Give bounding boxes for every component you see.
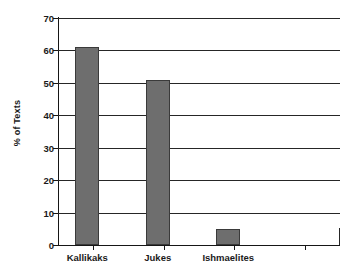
gridline bbox=[58, 213, 340, 214]
y-axis-title-text: % of Texts bbox=[12, 99, 22, 145]
bar-chart-figure: % of Texts 010203040506070 KallikaksJuke… bbox=[0, 0, 357, 279]
x-tick-mark bbox=[164, 245, 165, 250]
bar bbox=[146, 80, 170, 245]
gridline bbox=[58, 18, 340, 19]
bar bbox=[75, 47, 99, 245]
gridline bbox=[58, 245, 340, 246]
y-tick-mark bbox=[53, 18, 58, 19]
x-category-label: Jukes bbox=[144, 252, 171, 263]
y-tick-mark bbox=[53, 115, 58, 116]
x-tick-mark bbox=[305, 245, 306, 250]
y-tick-mark bbox=[53, 245, 58, 246]
gridline bbox=[58, 115, 340, 116]
x-axis-category-labels: KallikaksJukesIshmaelites bbox=[58, 252, 340, 268]
y-axis-tick-labels: 010203040506070 bbox=[26, 18, 54, 245]
bar bbox=[216, 229, 240, 245]
y-tick-mark bbox=[53, 213, 58, 214]
gridline bbox=[58, 148, 340, 149]
plot-area bbox=[58, 18, 340, 245]
y-tick-mark bbox=[53, 50, 58, 51]
y-axis-title: % of Texts bbox=[6, 0, 28, 245]
gridline bbox=[58, 83, 340, 84]
x-tick-mark bbox=[234, 245, 235, 250]
x-category-label: Kallikaks bbox=[67, 252, 108, 263]
x-tick-mark bbox=[93, 245, 94, 250]
x-category-label: Ishmaelites bbox=[202, 252, 254, 263]
y-tick-mark bbox=[53, 83, 58, 84]
y-tick-mark bbox=[53, 180, 58, 181]
gridline bbox=[58, 180, 340, 181]
y-tick-mark bbox=[53, 148, 58, 149]
gridline bbox=[58, 50, 340, 51]
